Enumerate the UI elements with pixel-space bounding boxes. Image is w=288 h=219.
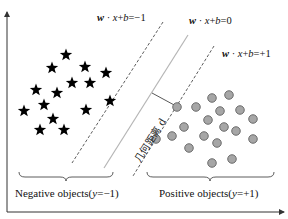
star-point bbox=[79, 61, 91, 73]
star-point bbox=[80, 104, 92, 116]
circle-point bbox=[208, 94, 217, 103]
positive-margin-equation: w · x+b=+1 bbox=[222, 48, 271, 59]
circle-point bbox=[180, 123, 189, 132]
star-point bbox=[18, 105, 30, 117]
circle-point bbox=[204, 116, 213, 125]
distance-marker bbox=[152, 93, 176, 106]
star-point bbox=[38, 99, 50, 111]
circle-point bbox=[232, 127, 241, 136]
svm-diagram: w · x+b=−1 w · x+b=0 w · x+b=+1 几何距离 d N… bbox=[0, 0, 288, 219]
circle-point bbox=[249, 135, 258, 144]
star-point bbox=[34, 124, 46, 136]
positive-points bbox=[152, 91, 258, 168]
star-point bbox=[84, 77, 96, 89]
circle-point bbox=[213, 139, 222, 148]
circle-point bbox=[225, 91, 234, 100]
star-point bbox=[47, 113, 59, 125]
circle-point bbox=[185, 144, 194, 153]
circle-point bbox=[200, 132, 209, 141]
star-point bbox=[58, 124, 70, 136]
circle-point bbox=[220, 123, 229, 132]
geometric-distance-label: 几何距离 d bbox=[132, 115, 169, 164]
star-point bbox=[51, 87, 63, 99]
circle-point bbox=[228, 155, 237, 164]
star-point bbox=[100, 67, 112, 79]
negative-margin-equation: w · x+b=−1 bbox=[97, 12, 146, 23]
star-point bbox=[46, 62, 58, 74]
circle-point bbox=[168, 132, 177, 141]
circle-point bbox=[236, 106, 245, 115]
positive-group-brace bbox=[147, 172, 274, 181]
star-point bbox=[66, 77, 78, 89]
negative-group-label: Negative objects(y=−1) bbox=[15, 187, 119, 200]
star-point bbox=[30, 84, 42, 96]
decision-boundary-equation: w · x+b=0 bbox=[189, 15, 232, 26]
negative-group-brace bbox=[19, 172, 113, 181]
circle-point bbox=[249, 115, 258, 124]
star-point bbox=[60, 49, 72, 61]
negative-points bbox=[18, 49, 116, 136]
positive-group-label: Positive objects(y=+1) bbox=[159, 187, 259, 200]
circle-point bbox=[208, 159, 217, 168]
star-point bbox=[104, 95, 116, 107]
circle-point bbox=[192, 103, 201, 112]
circle-point bbox=[173, 103, 182, 112]
circle-point bbox=[216, 107, 225, 116]
